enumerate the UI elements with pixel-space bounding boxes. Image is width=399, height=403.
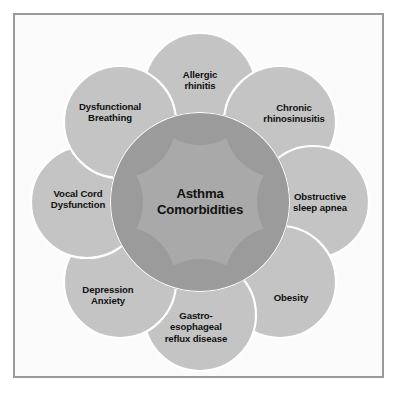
- asthma-comorbidities-diagram: [0, 0, 399, 403]
- figure-canvas: Asthma Comorbidities Allergic rhinitis C…: [0, 0, 399, 403]
